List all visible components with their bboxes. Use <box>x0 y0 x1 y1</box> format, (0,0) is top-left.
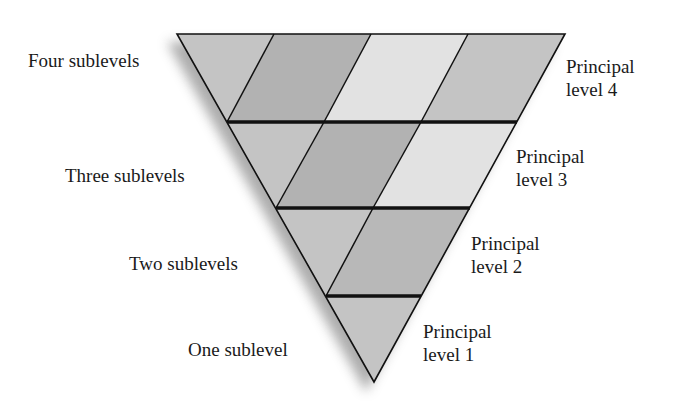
label-four-sublevels: Four sublevels <box>28 49 139 72</box>
label-line2: level 3 <box>516 168 585 191</box>
label-line2: level 2 <box>471 255 540 278</box>
label-text: Three sublevels <box>65 164 185 187</box>
label-text: Two sublevels <box>129 252 238 275</box>
row-principal-level-3 <box>227 122 517 208</box>
label-principal-level-1: Principal level 1 <box>423 320 492 366</box>
row-principal-level-4 <box>177 34 565 122</box>
label-line1: Principal <box>566 55 635 78</box>
label-one-sublevel: One sublevel <box>188 338 288 361</box>
label-line1: Principal <box>516 145 585 168</box>
label-principal-level-3: Principal level 3 <box>516 145 585 191</box>
label-line1: Principal <box>471 232 540 255</box>
label-three-sublevels: Three sublevels <box>65 164 185 187</box>
label-text: Four sublevels <box>28 49 139 72</box>
label-principal-level-4: Principal level 4 <box>566 55 635 101</box>
label-line2: level 1 <box>423 343 492 366</box>
label-line2: level 4 <box>566 78 635 101</box>
label-line1: Principal <box>423 320 492 343</box>
label-text: One sublevel <box>188 338 288 361</box>
label-principal-level-2: Principal level 2 <box>471 232 540 278</box>
label-two-sublevels: Two sublevels <box>129 252 238 275</box>
